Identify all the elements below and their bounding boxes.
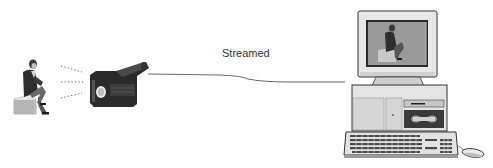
stream-label: Streamed [222, 47, 270, 59]
diagram-canvas: Streamed [0, 0, 493, 168]
mouse-icon [462, 147, 485, 158]
camcorder-icon [90, 62, 149, 107]
computer-icon [344, 11, 484, 159]
diagram-drawing [0, 0, 493, 168]
keyboard-icon [344, 132, 458, 158]
person-icon [14, 60, 49, 115]
stream-line [148, 74, 345, 82]
monitor-icon [358, 11, 437, 77]
dotted-rays [61, 66, 84, 98]
